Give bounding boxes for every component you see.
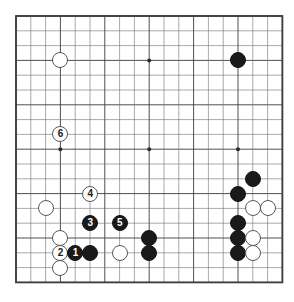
move-number-label: 6 xyxy=(58,129,63,139)
stone-white[interactable] xyxy=(52,260,68,276)
stone-white[interactable] xyxy=(38,200,54,216)
stone-white-move-4[interactable]: 4 xyxy=(82,186,98,202)
move-number-label: 5 xyxy=(117,218,122,228)
move-number-label: 2 xyxy=(58,248,63,258)
stone-white[interactable] xyxy=(245,230,261,246)
star-point xyxy=(236,147,240,151)
stone-black-move-1[interactable]: 1 xyxy=(67,245,83,261)
stone-white[interactable] xyxy=(260,200,276,216)
star-point xyxy=(147,147,151,151)
stone-black[interactable] xyxy=(245,171,261,187)
stone-black[interactable] xyxy=(141,245,157,261)
stone-white[interactable] xyxy=(245,245,261,261)
stone-white[interactable] xyxy=(112,245,128,261)
go-board-diagram: 643521 xyxy=(0,0,294,302)
stone-black[interactable] xyxy=(82,245,98,261)
star-point xyxy=(147,58,151,62)
move-number-label: 3 xyxy=(87,218,92,228)
stone-black[interactable] xyxy=(230,186,246,202)
star-point xyxy=(58,147,62,151)
stone-black[interactable] xyxy=(230,245,246,261)
move-number-label: 1 xyxy=(73,248,78,258)
move-number-label: 4 xyxy=(87,189,92,199)
stone-black-move-5[interactable]: 5 xyxy=(112,215,128,231)
stone-black[interactable] xyxy=(230,230,246,246)
